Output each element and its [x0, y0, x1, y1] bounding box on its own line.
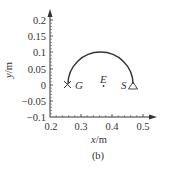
- point-label-s: S: [121, 79, 127, 91]
- y-axis: 0.2 0.15 0.1 0.05 0 −0.05 −0.1 y/m: [3, 9, 53, 123]
- point-label-g: G: [75, 79, 83, 91]
- y-tick-label: 0.15: [28, 31, 46, 42]
- y-tick-label: 0.2: [33, 15, 46, 26]
- x-tick-label: 0.5: [136, 121, 149, 132]
- x-tick-label: 0.3: [74, 121, 87, 132]
- x-axis-arrow-icon: [149, 115, 157, 120]
- y-tick-label: −0.1: [27, 112, 46, 123]
- y-tick-label: 0.05: [28, 64, 46, 75]
- y-tick-label: −0.05: [22, 96, 46, 107]
- x-tick-label: 0.2: [44, 121, 57, 132]
- x-tick-label: 0.4: [105, 121, 119, 132]
- x-axis: 0.2 0.3 0.4 0.5 x/m: [44, 114, 157, 145]
- trajectory-figure: 0.2 0.15 0.1 0.05 0 −0.05 −0.1 y/m 0.2 0…: [0, 0, 170, 170]
- dot-icon: [103, 85, 105, 87]
- x-axis-title: x/m: [90, 134, 107, 145]
- y-tick-label: 0: [41, 80, 46, 91]
- figure-caption: (b): [92, 150, 105, 162]
- point-label-e: E: [99, 73, 107, 85]
- y-tick-label: 0.1: [33, 47, 46, 58]
- y-axis-title: y/m: [3, 62, 14, 79]
- y-axis-arrow-icon: [48, 9, 53, 17]
